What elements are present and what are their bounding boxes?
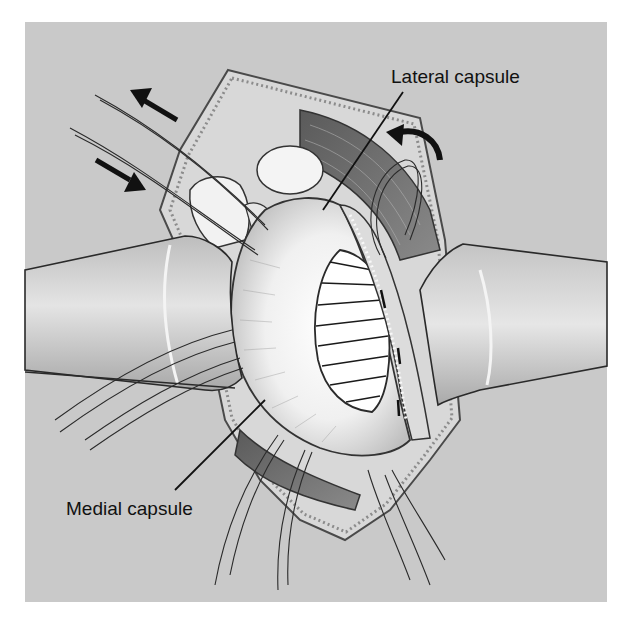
surgical-figure: Lateral capsule Medial capsule <box>0 0 622 620</box>
bone-structure <box>257 146 323 194</box>
arrow-in-icon <box>96 160 146 192</box>
retractor-left <box>25 236 242 391</box>
label-lateral-capsule: Lateral capsule <box>391 67 520 86</box>
surgical-illustration <box>0 0 622 620</box>
arrow-out-icon <box>130 88 177 120</box>
label-medial-capsule: Medial capsule <box>66 499 193 518</box>
retractor-right <box>420 244 607 405</box>
